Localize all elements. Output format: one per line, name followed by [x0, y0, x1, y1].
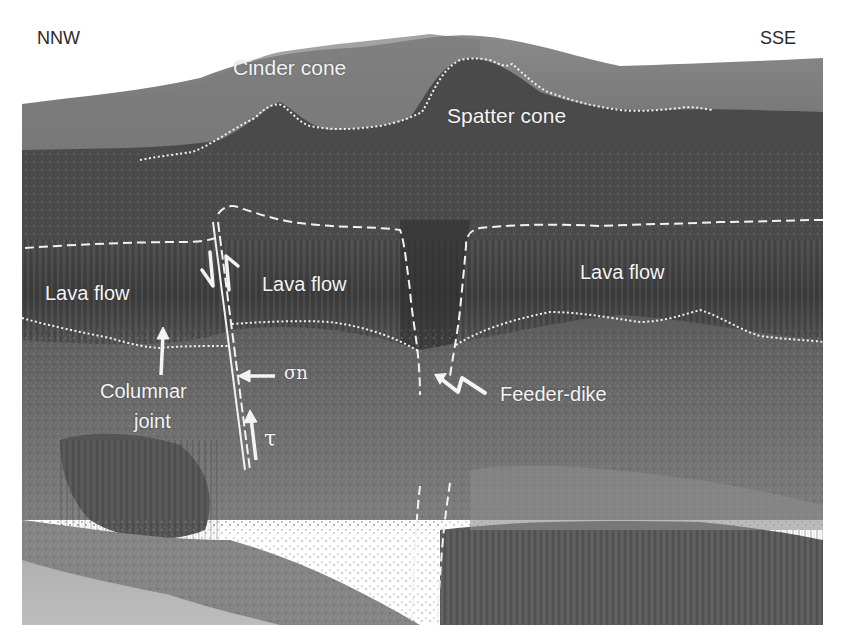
label-columnar-joint-line1: Columnar [100, 381, 187, 401]
label-spatter-cone: Spatter cone [447, 105, 566, 126]
photo-canvas [0, 0, 841, 644]
label-columnar-joint-line2: joint [134, 411, 171, 431]
photograph [22, 34, 823, 625]
direction-label-nnw: NNW [37, 29, 80, 47]
label-shear-stress: τ [264, 428, 276, 450]
label-lava-flow-right: Lava flow [580, 262, 665, 282]
direction-label-sse: SSE [760, 29, 796, 47]
label-lava-flow-left: Lava flow [45, 283, 130, 303]
label-lava-flow-center: Lava flow [262, 274, 347, 294]
geology-figure: NNW SSE Cinder cone Spatter cone Lava fl… [0, 0, 841, 644]
label-cinder-cone: Cinder cone [233, 57, 346, 78]
label-feeder-dike: Feeder-dike [500, 384, 607, 404]
label-normal-stress: σn [284, 364, 308, 382]
